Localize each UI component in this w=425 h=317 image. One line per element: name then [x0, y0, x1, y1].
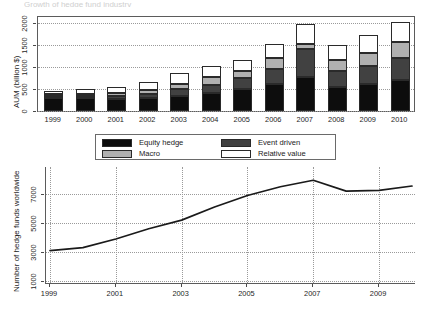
bar-segment: [202, 85, 221, 93]
bar-segment: [202, 66, 221, 77]
bar-x-tick-label: 2006: [262, 115, 284, 124]
bar-segment: [391, 22, 410, 43]
line-x-tick-label: 2007: [300, 289, 324, 298]
bar-x-tick-label: 2001: [105, 115, 127, 124]
line-y-tick-7000: 7000: [29, 183, 38, 207]
bar-segment: [233, 78, 252, 89]
bar-x-tick-label: 2004: [199, 115, 221, 124]
legend-label-macro: Macro: [139, 149, 160, 158]
bar-segment: [233, 60, 252, 71]
legend-label-relative-value: Relative value: [258, 149, 306, 158]
line-x-tick-label: 2003: [169, 289, 193, 298]
bar-x-tick-label: 2003: [168, 115, 190, 124]
legend-item-equity-hedge[interactable]: Equity hedge: [102, 138, 183, 147]
bar-column[interactable]: [107, 17, 126, 113]
bar-segment: [44, 98, 63, 111]
bar-segment: [359, 53, 378, 66]
line-x-tickmark: [115, 284, 116, 287]
bar-x-tick-label: 2002: [136, 115, 158, 124]
line-x-tickmark: [246, 284, 247, 287]
bar-column[interactable]: [170, 17, 189, 113]
line-ytickmark-7000: [41, 194, 44, 195]
line-y-tick-3000: 3000: [29, 241, 38, 265]
bar-y-tick-0: 0: [20, 101, 29, 123]
bar-column[interactable]: [328, 17, 347, 113]
bar-segment: [296, 77, 315, 111]
legend-swatch-macro-icon: [102, 150, 132, 158]
legend-item-macro[interactable]: Macro: [102, 149, 160, 158]
bar-segment: [328, 71, 347, 86]
line-ytickmark-1000: [41, 281, 44, 282]
bar-segment: [139, 82, 158, 90]
bar-segment: [265, 69, 284, 84]
bar-column[interactable]: [44, 17, 63, 113]
bar-segment: [391, 58, 410, 80]
legend-swatch-relative-value-icon: [221, 150, 251, 158]
bar-column[interactable]: [76, 17, 95, 113]
bar-segment: [170, 84, 189, 89]
bar-column[interactable]: [296, 17, 315, 113]
bar-column[interactable]: [391, 17, 410, 113]
bar-x-axis-labels: 1999200020012002200320042005200620072008…: [37, 115, 415, 129]
legend-swatch-event-driven-icon: [221, 139, 251, 147]
bar-segment: [328, 60, 347, 71]
bar-segment: [170, 73, 189, 84]
bar-segment: [328, 87, 347, 111]
bar-segment: [359, 84, 378, 111]
bar-segment: [44, 96, 63, 99]
bar-segment: [170, 89, 189, 95]
legend-swatch-equity-hedge-icon: [102, 139, 132, 147]
bar-ytickmark-2000: [33, 23, 36, 24]
legend-label-equity-hedge: Equity hedge: [139, 138, 183, 147]
line-x-tickmark: [312, 284, 313, 287]
line-chart-panel: Number of hedge funds worldwide 1000 300…: [0, 163, 425, 317]
line-ytickmark-5000: [41, 223, 44, 224]
bar-column[interactable]: [265, 17, 284, 113]
bar-segment: [44, 94, 63, 96]
bar-segment: [328, 45, 347, 60]
bar-segment: [202, 93, 221, 111]
bar-chart-panel: AUM (billion $) 0 500 1000 1500 2000 199…: [0, 8, 425, 133]
bar-y-tick-500: 500: [20, 79, 29, 101]
legend-item-relative-value[interactable]: Relative value: [221, 149, 306, 158]
bar-series-container: [38, 17, 414, 111]
bar-ytickmark-500: [33, 89, 36, 90]
bar-segment: [265, 44, 284, 59]
line-series-path: [46, 167, 416, 284]
bar-segment: [76, 98, 95, 111]
bar-segment: [202, 77, 221, 84]
bar-segment: [139, 94, 158, 98]
bar-segment: [76, 89, 95, 94]
legend-label-event-driven: Event driven: [258, 138, 300, 147]
legend-item-event-driven[interactable]: Event driven: [221, 138, 300, 147]
bar-segment: [296, 49, 315, 76]
bar-x-tick-label: 2000: [73, 115, 95, 124]
bar-column[interactable]: [139, 17, 158, 113]
bar-segment: [391, 42, 410, 58]
bar-segment: [76, 96, 95, 99]
line-x-tickmark: [49, 284, 50, 287]
bar-segment: [359, 66, 378, 84]
bar-segment: [296, 24, 315, 44]
line-x-tick-label: 1999: [37, 289, 61, 298]
bar-segment: [170, 96, 189, 111]
line-y-axis-title: Number of hedge funds worldwide: [12, 171, 21, 292]
bar-column[interactable]: [233, 17, 252, 113]
figure-root: Growth of hedge fund industry AUM (billi…: [0, 0, 425, 317]
cropped-header-text: Growth of hedge fund industry: [24, 0, 204, 7]
legend: Equity hedge Event driven Macro Relative…: [95, 134, 336, 160]
bar-x-tick-label: 2010: [388, 115, 410, 124]
bar-column[interactable]: [202, 17, 221, 113]
bar-segment: [359, 35, 378, 53]
bar-y-tick-2000: 2000: [20, 13, 29, 35]
bar-ytickmark-0: [33, 111, 36, 112]
bar-y-tick-1000: 1000: [20, 57, 29, 79]
line-x-tick-label: 2001: [103, 289, 127, 298]
bar-x-tick-label: 1999: [42, 115, 64, 124]
line-y-tick-5000: 5000: [29, 212, 38, 236]
bar-plot-area: [37, 16, 415, 112]
bar-segment: [233, 71, 252, 79]
line-x-tickmark: [181, 284, 182, 287]
bar-segment: [265, 58, 284, 69]
bar-column[interactable]: [359, 17, 378, 113]
